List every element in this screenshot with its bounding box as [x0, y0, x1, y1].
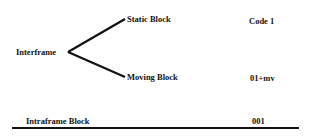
intraframe-label: Intraframe Block: [26, 117, 90, 126]
branch-line-moving: [68, 52, 125, 77]
divider-rule: [12, 127, 299, 129]
branch-moving-label: Moving Block: [127, 73, 178, 82]
root-label: Interframe: [16, 48, 56, 57]
branch-static-code: Code 1: [249, 17, 274, 26]
branch-static-label: Static Block: [127, 15, 171, 24]
branch-line-static: [68, 19, 125, 52]
intraframe-code: 001: [252, 117, 265, 126]
branch-moving-code: 01+mv: [250, 74, 275, 83]
